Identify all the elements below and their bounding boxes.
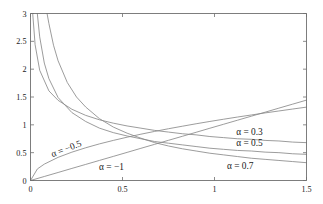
line-chart: 00.511.522.5300.511.5 α = −0.5α = −1α = … — [0, 0, 323, 204]
y-tick-label: 0.5 — [16, 149, 26, 158]
x-tick-label: 0.5 — [117, 185, 127, 194]
x-tick-label: 0 — [28, 185, 32, 194]
annotation-label: α = 0.7 — [227, 161, 254, 171]
y-tick-label: 1 — [22, 121, 26, 130]
y-tick-label: 1.5 — [16, 93, 26, 102]
annotation-label: α = −1 — [99, 162, 124, 172]
annotation-label: α = 0.3 — [236, 127, 263, 137]
y-tick-label: 2 — [22, 65, 26, 74]
y-tick-label: 2.5 — [16, 37, 26, 46]
axes-group — [31, 14, 307, 181]
y-tick-label: 0 — [22, 177, 26, 186]
x-tick-label: 1 — [212, 185, 216, 194]
tick-marks-group — [31, 14, 307, 181]
curve-series-group — [31, 14, 307, 181]
chart-figure: 00.511.522.5300.511.5 α = −0.5α = −1α = … — [0, 0, 323, 204]
annotation-label: α = 0.5 — [236, 138, 263, 148]
curve-alpha-0p5 — [37, 14, 306, 155]
y-tick-label: 3 — [22, 10, 26, 19]
curve-alpha-0p3 — [33, 14, 307, 143]
x-tick-label: 1.5 — [301, 185, 311, 194]
annotation-label: α = −0.5 — [50, 138, 84, 159]
